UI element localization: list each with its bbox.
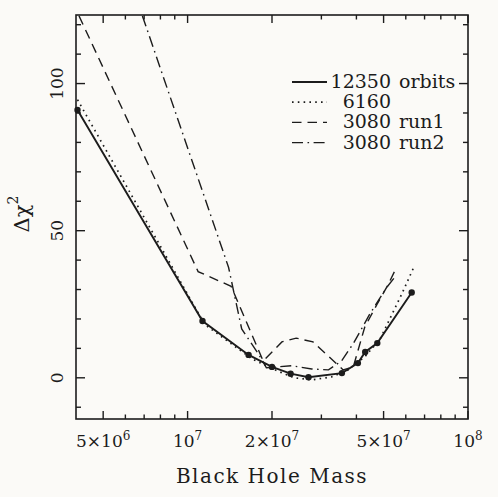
- x-tick-label: 107: [173, 429, 202, 451]
- data-point-marker: [339, 370, 345, 376]
- legend-label-suffix: orbits: [399, 70, 455, 92]
- x-tick-label: 5×107: [356, 429, 410, 451]
- data-point-marker: [362, 349, 368, 355]
- x-tick-label: 5×106: [76, 429, 130, 451]
- legend-label-suffix: run1: [399, 110, 445, 132]
- x-axis-title: Black Hole Mass: [176, 464, 368, 488]
- legend-label-suffix: run2: [399, 131, 445, 153]
- data-point-marker: [199, 318, 205, 324]
- scanned-figure-page: 5×1061072×1075×107108050100Black Hole Ma…: [0, 0, 498, 497]
- legend-label-num: 3080: [343, 110, 391, 132]
- data-point-marker: [287, 371, 293, 377]
- delta-chi-square-vs-black-hole-mass-chart: 5×1061072×1075×107108050100Black Hole Ma…: [0, 0, 498, 497]
- x-tick-label: 2×107: [245, 429, 299, 451]
- x-tick-label: 108: [453, 429, 482, 451]
- y-axis-title: Δχ2: [5, 196, 34, 233]
- y-tick-label: 0: [47, 372, 67, 383]
- data-point-marker: [409, 289, 415, 295]
- legend-label-num: 6160: [343, 90, 391, 112]
- y-tick-label: 100: [47, 67, 67, 99]
- series-line-dashdot: [142, 16, 394, 370]
- legend-label-num: 3080: [343, 131, 391, 153]
- legend-label-num: 12350: [331, 70, 391, 92]
- y-tick-label: 50: [47, 220, 67, 242]
- legend: 12350orbits61603080run13080run2: [292, 70, 455, 153]
